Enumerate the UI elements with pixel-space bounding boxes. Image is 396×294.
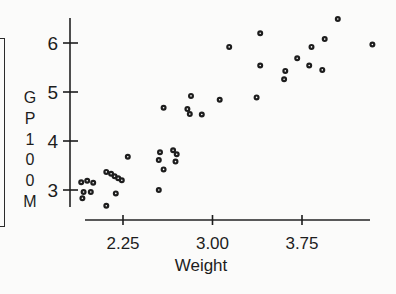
data-point	[371, 43, 375, 47]
data-point	[104, 170, 108, 174]
data-point	[126, 155, 130, 159]
data-point	[200, 113, 204, 117]
data-point	[114, 192, 118, 196]
data-point	[158, 150, 162, 154]
data-point	[162, 168, 166, 172]
y-tick-label: 4	[47, 131, 58, 152]
data-point	[258, 31, 262, 35]
data-point	[120, 178, 124, 182]
data-point	[310, 45, 314, 49]
data-point	[189, 94, 193, 98]
data-point	[104, 204, 108, 208]
data-point	[336, 17, 340, 21]
data-point	[174, 160, 178, 164]
data-point	[157, 188, 161, 192]
data-point	[85, 179, 89, 183]
data-point	[82, 190, 86, 194]
y-tick-label: 6	[47, 33, 58, 54]
data-point	[283, 69, 287, 73]
y-tick-label: 3	[47, 180, 58, 201]
data-point	[295, 56, 299, 60]
plot-area: 34562.253.003.75	[0, 0, 396, 294]
data-point	[162, 106, 166, 110]
x-tick-label: 3.00	[196, 234, 229, 253]
data-point	[227, 45, 231, 49]
data-point	[89, 190, 93, 194]
x-axis-label: Weight	[151, 256, 251, 276]
x-tick-label: 3.75	[285, 234, 318, 253]
scatterplot-figure: GP100M 34562.253.003.75 Weight	[0, 0, 396, 294]
data-point	[157, 158, 161, 162]
data-point	[258, 64, 262, 68]
data-point	[282, 77, 286, 81]
data-point	[79, 180, 83, 184]
data-point	[81, 196, 85, 200]
data-points	[79, 17, 374, 208]
data-point	[175, 152, 179, 156]
data-point	[188, 112, 192, 116]
y-tick-label: 5	[47, 82, 58, 103]
data-point	[320, 68, 324, 72]
data-point	[186, 107, 190, 111]
data-point	[323, 37, 327, 41]
data-point	[307, 64, 311, 68]
data-point	[91, 181, 95, 185]
data-point	[171, 148, 175, 152]
data-point	[218, 98, 222, 102]
x-tick-label: 2.25	[106, 234, 139, 253]
data-point	[255, 96, 259, 100]
